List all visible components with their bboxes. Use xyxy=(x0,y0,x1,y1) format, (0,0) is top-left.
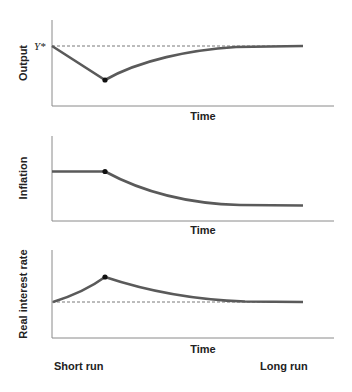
output-ylabel: Output xyxy=(17,45,29,81)
output-xlabel: Time xyxy=(190,110,215,122)
interest-rate-curve xyxy=(53,277,303,302)
output-panel: Y* Output Time xyxy=(17,20,334,122)
output-marker xyxy=(102,77,107,82)
interest-rate-ylabel: Real interest rate xyxy=(17,249,29,338)
inflation-curve xyxy=(52,172,303,206)
interest-rate-marker xyxy=(102,274,107,279)
output-curve xyxy=(52,46,303,80)
short-run-label: Short run xyxy=(54,360,104,372)
inflation-ylabel: Inflation xyxy=(17,156,29,199)
long-run-label: Long run xyxy=(260,360,308,372)
interest-rate-panel: Real interest rate Time xyxy=(17,249,334,355)
figure: Y* Output Time Inflation Time Real inter… xyxy=(0,0,352,392)
inflation-marker xyxy=(102,169,107,174)
y-star-label: Y* xyxy=(34,40,46,52)
inflation-xlabel: Time xyxy=(190,224,215,236)
inflation-panel: Inflation Time xyxy=(17,136,334,236)
interest-rate-xlabel: Time xyxy=(190,343,215,355)
